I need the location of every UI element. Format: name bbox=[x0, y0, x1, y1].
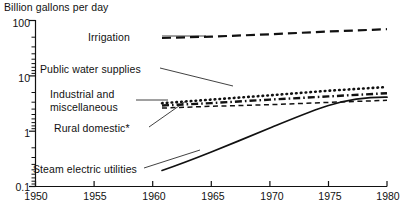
series-line-steam-electric bbox=[162, 97, 387, 170]
plot-area bbox=[0, 0, 409, 208]
series-line-irrigation bbox=[162, 29, 387, 38]
chart-figure: Billion gallons per day 100 10 1 0.1 195… bbox=[0, 0, 409, 208]
y-axis-major-ticks bbox=[29, 21, 36, 187]
x-axis-ticks bbox=[36, 181, 388, 187]
